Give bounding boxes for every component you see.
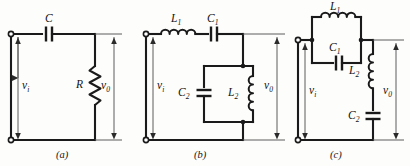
circuit-c-terminal-input-top: [295, 37, 300, 42]
label-vi-a: vi: [22, 80, 29, 94]
label-resistor-R-a: R: [76, 79, 83, 91]
circuit-figure: C R vi v0 (a) L1 C1 C2 L2 vi v0 (b) L1 C…: [0, 0, 410, 166]
circuit-a-terminal-input-top: [8, 31, 13, 36]
label-inductor-L2-b: L2: [228, 87, 238, 101]
circuit-a-vi-arrow: [15, 37, 21, 140]
caption-c: (c): [330, 150, 342, 161]
circuit-b-vi-arrow: [150, 37, 156, 140]
label-inductor-L1-c: L1: [330, 1, 340, 15]
circuit-c-node-tank-left: [310, 38, 315, 43]
circuit-c-vi-arrow: [302, 43, 308, 140]
label-vi-b: vi: [157, 80, 164, 94]
circuit-b-node-bottom: [241, 120, 246, 125]
inductor-L1-symbol-b: [161, 30, 195, 34]
label-vo-a: v0: [101, 80, 110, 94]
label-capacitor-C-a: C: [45, 13, 53, 25]
circuit-c-node-tank-right: [359, 38, 364, 43]
label-capacitor-C2-b: C2: [178, 87, 190, 101]
circuit-b-terminal-input-top: [143, 31, 148, 36]
inductor-L2-symbol-b: [249, 76, 253, 110]
circuit-c-terminal-input-bottom: [295, 137, 300, 142]
resistor-R-symbol: [90, 66, 101, 105]
label-vo-b: v0: [264, 80, 273, 94]
caption-b: (b): [194, 150, 206, 161]
label-vi-c: vi: [309, 85, 316, 99]
label-capacitor-C1-b: C1: [207, 13, 219, 27]
caption-a: (a): [56, 150, 68, 161]
label-vo-c: v0: [383, 85, 392, 99]
inductor-L2-symbol-c: [369, 54, 373, 88]
label-capacitor-C1-c: C1: [329, 42, 341, 56]
circuit-a-terminal-input-bottom: [8, 137, 13, 142]
circuit-drawing: [0, 0, 410, 166]
circuit-b-node-top: [241, 64, 246, 69]
label-capacitor-C2-c: C2: [348, 110, 360, 124]
circuit-b-terminal-input-bottom: [143, 137, 148, 142]
label-inductor-L2-c: L2: [349, 65, 359, 79]
label-inductor-L1-b: L1: [171, 13, 181, 27]
